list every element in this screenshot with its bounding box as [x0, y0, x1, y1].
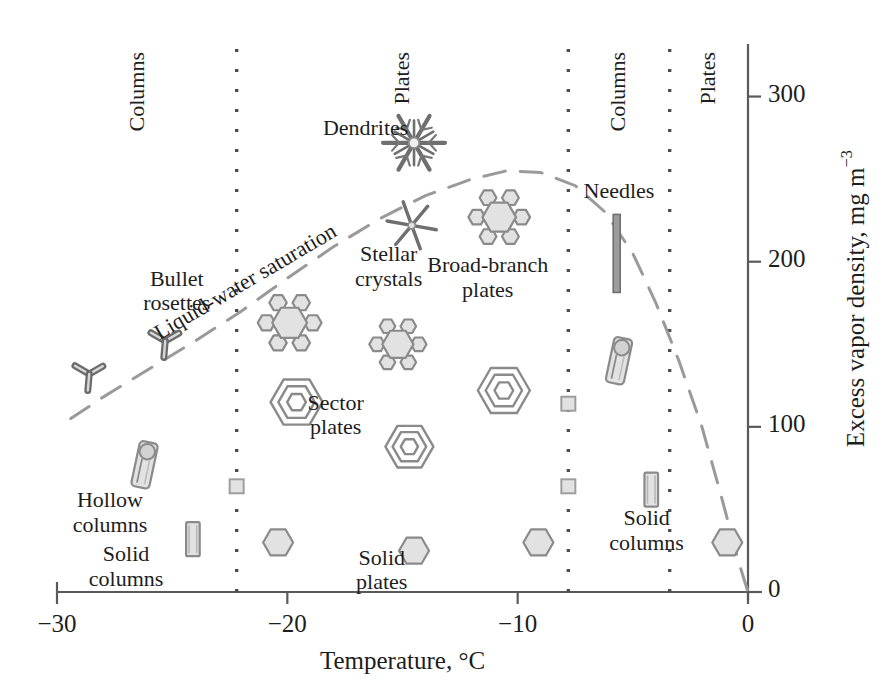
crystal-icon-bullet-rosette — [88, 374, 89, 390]
crystal-icon-branched-plate — [482, 203, 516, 232]
crystal-label-solid-columns-r: Solidcolumns — [547, 506, 747, 555]
crystal-label-needles: Needles — [519, 179, 719, 204]
crystal-icon-square — [230, 479, 244, 493]
crystal-icon-sector-plate — [401, 439, 418, 454]
crystal-label-bullet-rosettes: Bulletrosettes — [77, 267, 277, 316]
x-tick-label-3: 0 — [688, 610, 808, 638]
crystal-icon-dendrite — [418, 156, 421, 166]
figure-canvas: −30−20−1000100200300Temperature, °CExces… — [0, 0, 883, 683]
y-tick-label-0: 0 — [768, 575, 781, 603]
crystal-icon-square — [561, 479, 575, 493]
y-axis-title: Excess vapor density, mg m−3 — [838, 150, 870, 447]
x-tick-label-0: −30 — [0, 610, 117, 638]
region-label-columns-2: Columns — [606, 52, 632, 131]
region-label-plates-1: Plates — [390, 52, 416, 105]
crystal-label-solid-plates: Solidplates — [282, 546, 482, 595]
crystal-icon-hollow-column — [131, 440, 159, 489]
crystal-icon-square — [561, 397, 575, 411]
crystal-label-broad-branch: Broad-branchplates — [388, 253, 588, 302]
y-tick-label-3: 300 — [768, 80, 806, 108]
crystal-icon-star — [408, 222, 415, 229]
region-label-plates-3: Plates — [696, 52, 722, 105]
crystal-icon-branched-plate — [272, 308, 307, 338]
crystal-icon-sector-plate — [486, 375, 522, 407]
y-tick-label-2: 200 — [768, 245, 806, 273]
crystal-label-dendrites: Dendrites — [266, 116, 466, 141]
x-tick-label-1: −20 — [227, 610, 347, 638]
crystal-icon-dendrite — [407, 156, 410, 166]
crystal-icon-hollow-column — [605, 336, 633, 385]
crystal-icon-needle — [613, 214, 620, 292]
crystal-label-hollow-columns: Hollowcolumns — [10, 488, 210, 537]
crystal-icon-branched-plate — [382, 331, 413, 358]
x-tick-label-2: −10 — [458, 610, 578, 638]
crystal-label-solid-columns-l: Solidcolumns — [26, 542, 226, 591]
crystal-label-sector-plates: Sectorplates — [236, 391, 436, 440]
region-label-columns-0: Columns — [125, 52, 151, 131]
y-tick-label-1: 100 — [768, 410, 806, 438]
crystal-icon-sector-plate — [494, 382, 513, 398]
crystal-icon-solid-column — [644, 473, 658, 507]
x-axis-title: Temperature, °C — [203, 647, 603, 675]
